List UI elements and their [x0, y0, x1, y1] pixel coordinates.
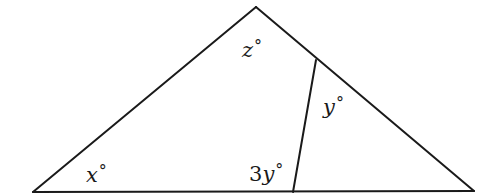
degree-symbol: °	[254, 36, 262, 55]
left-side	[33, 7, 256, 192]
degree-symbol: °	[336, 93, 344, 112]
angle-var: y	[323, 95, 335, 119]
base-side	[33, 191, 474, 192]
cevian-segment	[293, 60, 316, 192]
angle-label-y: y°	[323, 95, 344, 118]
right-side	[256, 7, 474, 191]
angle-coefficient: 3	[249, 162, 262, 186]
angle-label-z: z°	[242, 38, 262, 61]
angle-var: z	[242, 38, 253, 62]
angle-var: x	[86, 163, 98, 187]
degree-symbol: °	[99, 161, 107, 180]
angle-label-3y: 3y°	[249, 162, 283, 185]
angle-var: y	[262, 162, 274, 186]
degree-symbol: °	[275, 160, 283, 179]
angle-label-x: x°	[86, 163, 107, 186]
